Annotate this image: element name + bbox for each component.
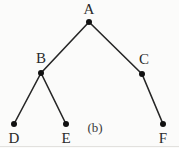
tree-edge-a-c [89, 22, 142, 74]
tree-node-label-f: F [159, 131, 167, 146]
figure-caption: (b) [87, 121, 102, 134]
nodes-group [11, 19, 166, 127]
tree-node-d [11, 121, 17, 127]
tree-node-f [160, 121, 166, 127]
tree-node-label-c: C [139, 52, 149, 67]
tree-edge-b-e [41, 73, 66, 124]
tree-node-e [63, 121, 69, 127]
tree-node-c [139, 71, 145, 77]
tree-diagram-figure: ABCDEF (b) [0, 0, 179, 148]
bottom-divider [0, 146, 179, 147]
tree-edge-b-d [14, 73, 41, 124]
tree-node-label-a: A [84, 2, 95, 17]
tree-edge-a-b [41, 22, 89, 73]
tree-node-label-b: B [36, 51, 46, 66]
tree-node-label-e: E [61, 131, 70, 146]
tree-edge-c-f [142, 74, 163, 124]
tree-node-b [38, 70, 44, 76]
tree-node-label-d: D [9, 131, 20, 146]
tree-node-a [86, 19, 92, 25]
